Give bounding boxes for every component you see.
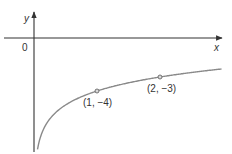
graph: y x 0 (1, −4) (2, −3): [0, 0, 232, 154]
x-axis-label: x: [213, 42, 220, 53]
point-2-marker: [158, 75, 162, 79]
origin-label: 0: [22, 42, 28, 53]
point-1-marker: [95, 89, 99, 93]
y-axis-label: y: [23, 13, 30, 24]
point-1-label: (1, −4): [83, 97, 112, 108]
point-2-label: (2, −3): [147, 83, 176, 94]
log-curve: [38, 69, 222, 149]
